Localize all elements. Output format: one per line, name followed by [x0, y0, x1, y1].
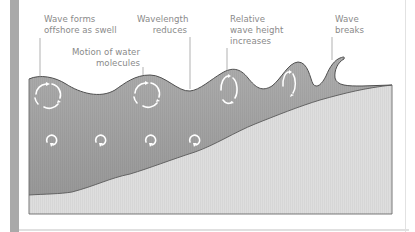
label-line: breaks [335, 25, 364, 36]
label-relative-height: Relative wave height increases [230, 14, 283, 47]
label-wave-breaks: Wave breaks [335, 14, 364, 36]
label-line: molecules [68, 58, 140, 69]
label-line: Relative [230, 14, 283, 25]
label-line: Wavelength [137, 14, 187, 25]
label-line: reduces [137, 25, 187, 36]
label-wave-forms: Wave forms offshore as swell [44, 14, 117, 36]
label-wavelength: Wavelength reduces [137, 14, 187, 36]
label-motion: Motion of water molecules [68, 47, 140, 69]
label-line: Wave forms [44, 14, 117, 25]
label-line: Motion of water [68, 47, 140, 58]
label-line: wave height [230, 25, 283, 36]
label-line: increases [230, 36, 283, 47]
label-line: offshore as swell [44, 25, 117, 36]
label-line: Wave [335, 14, 364, 25]
wave-diagram: Wave forms offshore as swell Wavelength … [0, 0, 415, 232]
